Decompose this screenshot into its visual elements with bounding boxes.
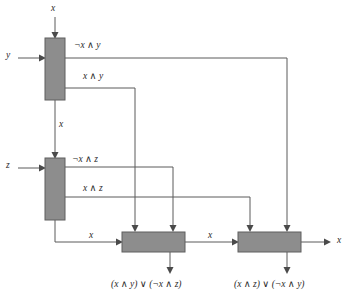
output-label-gate4: (x ∧ z) ∨ (¬x ∧ y) [234,280,305,290]
gate-middle-left[interactable] [45,158,65,220]
arrowhead-not-x-and-y-into-gate4 [284,225,291,232]
arrowhead-x-and-z-into-gate4 [247,225,254,232]
wire-label-x-gate1-gate2: x [59,120,63,130]
arrowhead-gate3-output [167,267,174,274]
input-label-y: y [6,51,10,61]
output-label-gate3: (x ∧ y) ∨ (¬x ∧ z) [111,280,182,290]
wire-x-and-z [65,197,250,226]
output-label-x: x [337,236,341,246]
arrowhead-not-x-and-z-into-gate3 [170,225,177,232]
arrowhead-gate4-output [284,267,291,274]
wire-label-x-and-z: x ∧ z [83,184,103,194]
wire-label-x-and-y: x ∧ y [83,72,103,82]
circuit-diagram: x y z ¬x ∧ y x ∧ y x ¬x ∧ z x ∧ z x x x … [0,0,351,298]
wire-not-x-and-y [65,58,287,226]
arrowhead-x-and-y-into-gate3 [132,225,139,232]
gate-bottom-left[interactable] [122,232,185,252]
input-label-x-top: x [51,4,55,14]
input-label-z: z [6,161,10,171]
arrowhead-x-final-output [324,239,331,246]
circuit-wiring-canvas [0,0,351,298]
wire-label-x-gate3-gate4: x [208,231,212,241]
wire-label-x-into-gate3: x [89,231,93,241]
wire-x-gate2-to-gate3 [55,220,117,242]
wire-label-not-x-and-z: ¬x ∧ z [72,155,98,165]
wire-label-not-x-and-y: ¬x ∧ y [74,41,101,51]
gate-top-left[interactable] [45,38,65,100]
gate-bottom-right[interactable] [238,232,301,252]
